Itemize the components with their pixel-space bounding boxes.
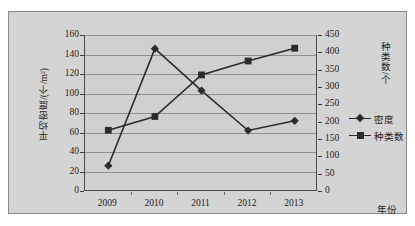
legend-diamond-icon [349, 114, 371, 124]
right-axis-tick-label: 200 [325, 117, 339, 127]
legend-item[interactable]: 种类数 [349, 127, 413, 144]
data-point-marker [245, 58, 252, 65]
right-axis-title: 种类数/个 [376, 42, 390, 85]
right-axis-tick-label: 450 [325, 30, 339, 40]
left-axis-tickmark [80, 152, 84, 153]
left-axis-tick-label: 20 [49, 167, 79, 177]
data-point-marker [198, 72, 205, 79]
legend-square-icon [349, 131, 371, 141]
x-axis-tick-label: 2010 [132, 198, 176, 208]
right-axis-tick-label: 50 [325, 169, 335, 179]
data-point-marker [291, 45, 298, 52]
left-axis-tick-label: 60 [49, 128, 79, 138]
right-axis-tickmark [318, 174, 322, 175]
data-point-marker [291, 117, 299, 125]
right-axis-tick-label: 150 [325, 134, 339, 144]
right-axis-tickmark [318, 156, 322, 157]
left-axis-tick-label: 120 [49, 69, 79, 79]
right-axis-tickmark [318, 35, 322, 36]
right-axis-tickmark [318, 52, 322, 53]
right-axis-tick-label: 250 [325, 99, 339, 109]
left-axis-tick-label: 100 [49, 89, 79, 99]
x-axis-tickmark [177, 192, 178, 195]
data-point-marker [104, 162, 112, 170]
chart-page: ┄ 平均密度/(个/m²) 种类数/个 年份 02040608010012014… [0, 0, 415, 226]
x-axis-tickmark [224, 192, 225, 195]
right-axis-tickmark [318, 122, 322, 123]
x-axis-tick-label: 2013 [272, 198, 316, 208]
legend-item[interactable]: 密度 [349, 110, 413, 127]
top-remnant-text: ┄ [4, 0, 415, 5]
x-axis-tick-label: 2011 [179, 198, 223, 208]
left-axis-tickmark [80, 191, 84, 192]
series-diamond [104, 45, 299, 170]
right-axis-tick-label: 100 [325, 151, 339, 161]
right-axis-tick-label: 350 [325, 65, 339, 75]
legend: 密度种类数 [349, 110, 413, 144]
plot-area [84, 35, 317, 191]
x-axis-tick-label: 2012 [225, 198, 269, 208]
chart-frame: 平均密度/(个/m²) 种类数/个 年份 0204060801001201401… [8, 11, 407, 214]
left-axis-tickmark [80, 35, 84, 36]
right-axis-tickmark [318, 70, 322, 71]
left-axis-tick-label: 140 [49, 50, 79, 60]
right-axis-tickmark [318, 191, 322, 192]
left-axis-tickmark [80, 113, 84, 114]
right-axis-tickmark [318, 139, 322, 140]
x-axis-tickmark [270, 192, 271, 195]
left-axis-tickmark [80, 133, 84, 134]
right-axis-tickmark [318, 87, 322, 88]
x-axis-tick-label: 2009 [85, 198, 129, 208]
x-axis-tickmark [131, 192, 132, 195]
right-axis-tickmark [318, 104, 322, 105]
page-top-text-remnant: ┄ [0, 0, 415, 9]
legend-item-label: 密度 [374, 112, 394, 126]
series-line [108, 49, 294, 166]
left-axis-tickmark [80, 55, 84, 56]
legend-item-label: 种类数 [374, 129, 404, 143]
left-axis-tick-label: 0 [49, 186, 79, 196]
series-layer [85, 35, 318, 191]
left-axis-tickmark [80, 94, 84, 95]
left-axis-tick-label: 80 [49, 108, 79, 118]
left-axis-tick-label: 160 [49, 30, 79, 40]
left-axis-tick-label: 40 [49, 147, 79, 157]
data-point-marker [152, 113, 159, 120]
left-axis-tickmark [80, 74, 84, 75]
right-axis-tick-label: 0 [325, 186, 330, 196]
right-axis-tick-label: 300 [325, 82, 339, 92]
x-axis-title: 年份 [377, 202, 397, 216]
left-axis-tickmark [80, 172, 84, 173]
data-point-marker [105, 127, 112, 134]
right-axis-tick-label: 400 [325, 47, 339, 57]
